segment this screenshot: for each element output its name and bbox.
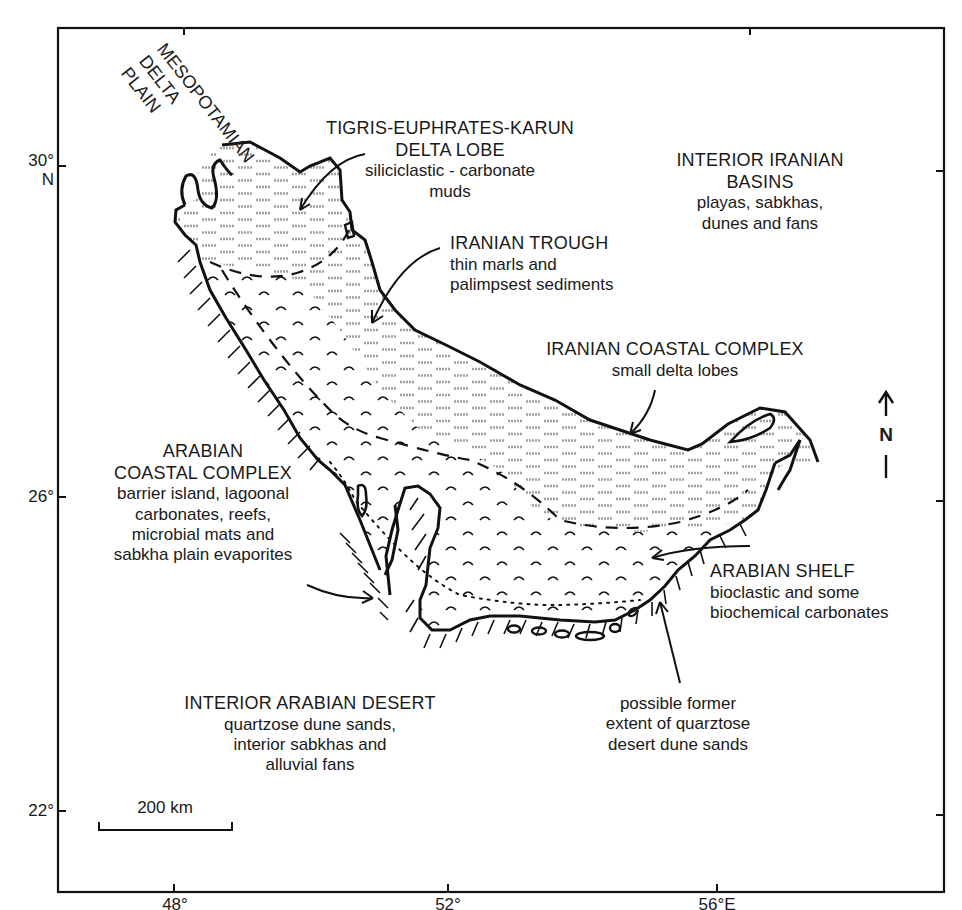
label-tigris-delta-lobe: TIGRIS-EUPHRATES-KARUN DELTA LOBE silici…	[300, 118, 600, 202]
label-former-dune-extent: possible former extent of quarztose dese…	[588, 694, 768, 755]
label-arabian-coastal-complex: ARABIAN COASTAL COMPLEX barrier island, …	[88, 441, 318, 566]
lat-label-30: 30°N	[20, 152, 54, 189]
label-arabian-shelf: ARABIAN SHELF bioclastic and some bioche…	[710, 561, 889, 623]
label-iranian-trough: IRANIAN TROUGH thin marls and palimpsest…	[450, 233, 613, 295]
label-interior-iranian-basins: INTERIOR IRANIAN BASINS playas, sabkhas,…	[660, 150, 860, 234]
arrow-former-extent	[660, 602, 680, 683]
label-interior-arabian-desert: INTERIOR ARABIAN DESERT quartzose dune s…	[175, 693, 445, 776]
lat-label-22: 22°	[20, 802, 54, 821]
label-iranian-coastal-complex: IRANIAN COASTAL COMPLEX small delta lobe…	[530, 339, 820, 381]
lon-label-48: 48°	[155, 896, 195, 910]
scale-bar-label: 200 km	[120, 798, 210, 818]
lon-label-52: 52°	[428, 896, 468, 910]
scale-bar	[99, 822, 232, 830]
north-label: N	[876, 424, 896, 447]
lat-label-26: 26°	[20, 488, 54, 507]
lon-label-56E: 56°E	[692, 896, 742, 910]
arrow-iranian-coastal	[630, 390, 655, 434]
